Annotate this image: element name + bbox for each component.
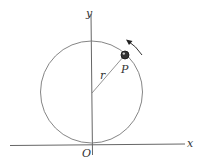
radius-label: r (100, 69, 106, 82)
origin-label: O (82, 147, 91, 160)
circular-motion-diagram: y x O r P (0, 0, 202, 164)
particle-p (121, 51, 129, 59)
y-axis (91, 14, 93, 155)
particle-label: P (120, 63, 129, 76)
x-axis-label: x (187, 137, 194, 150)
radius-line (92, 56, 124, 93)
x-axis (10, 144, 185, 146)
y-axis-label: y (85, 7, 93, 20)
